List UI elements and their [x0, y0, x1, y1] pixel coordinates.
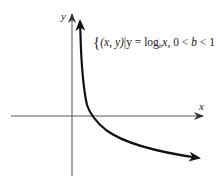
open-brace: { — [93, 34, 100, 50]
set-notation-label: {(x, y)|y = logbx, 0 < b < 1} — [93, 34, 216, 50]
condition-rhs: < 1 — [197, 36, 215, 48]
log-curve — [80, 21, 87, 105]
log-curve-right — [87, 105, 199, 158]
graph-canvas — [0, 0, 216, 185]
condition: , 0 < — [167, 36, 191, 48]
equation-lhs: y = log — [126, 36, 159, 48]
x-axis-label: x — [199, 101, 204, 112]
pair: (x, y) — [100, 36, 124, 48]
y-axis-label: y — [61, 11, 66, 22]
close-brace: } — [215, 34, 216, 50]
